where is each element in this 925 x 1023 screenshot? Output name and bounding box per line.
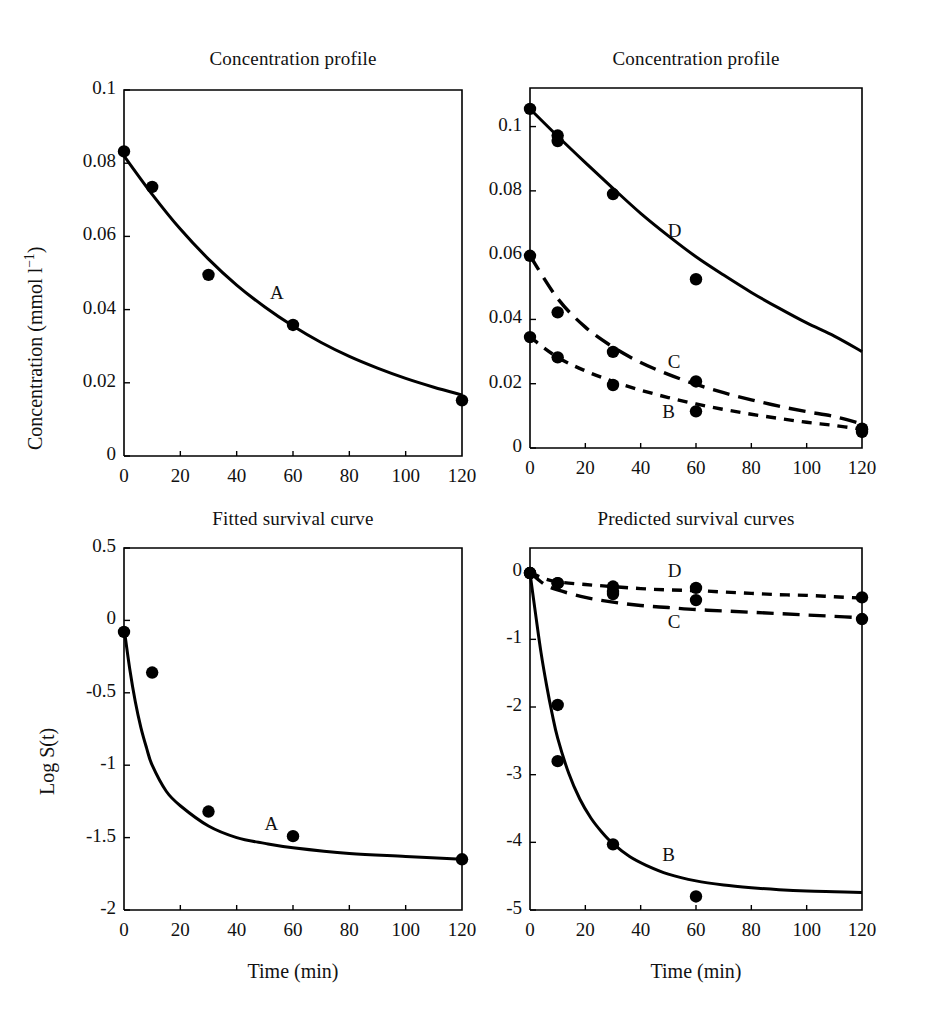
x-axis-label: Time (min) [530,960,862,983]
curve-label-C: C [668,611,681,633]
y-tick-label: 0 [452,559,522,581]
x-tick-label: 60 [666,919,726,941]
x-tick-label: 20 [555,919,615,941]
data-point [690,594,702,606]
curve-C [530,572,862,617]
y-tick-label: -1 [452,626,522,648]
data-point [607,838,619,850]
data-point [551,699,563,711]
figure-container: Concentration profileA02040608010012000.… [0,0,925,1023]
data-point [551,577,563,589]
data-point [856,591,868,603]
y-tick-label: -4 [452,829,522,851]
curve-D [530,572,862,598]
curve-label-B: B [662,844,675,866]
data-point [524,567,536,579]
data-point [607,580,619,592]
data-point [856,613,868,625]
x-tick-label: 0 [500,919,560,941]
x-tick-label: 120 [832,919,892,941]
panel-title: Predicted survival curves [530,508,862,530]
x-tick-label: 40 [611,919,671,941]
data-point [524,567,536,579]
panel-bottom-right: Predicted survival curvesDCB020406080100… [0,0,925,1023]
y-tick-label: -2 [452,694,522,716]
data-point [690,582,702,594]
x-tick-label: 80 [721,919,781,941]
y-tick-label: -5 [452,897,522,919]
curve-label-D: D [668,560,682,582]
curve-B [530,573,862,892]
plot-frame [530,548,862,910]
y-tick-label: -3 [452,762,522,784]
data-point [607,588,619,600]
data-point [524,567,536,579]
data-point [690,890,702,902]
data-point [551,755,563,767]
data-point [607,586,619,598]
data-point [551,577,563,589]
x-tick-label: 100 [777,919,837,941]
